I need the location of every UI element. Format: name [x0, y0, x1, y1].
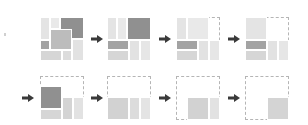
- panel-7: [176, 76, 220, 120]
- arrow-right-icon: [91, 35, 103, 43]
- arrow-right-icon: [159, 35, 171, 43]
- tile: [176, 17, 187, 40]
- tile: [40, 109, 62, 120]
- tile: [176, 40, 198, 50]
- panel-6: [107, 76, 151, 120]
- tile: [73, 97, 84, 120]
- panel-4: [245, 17, 289, 61]
- arrow-right-icon: [228, 94, 240, 102]
- panel-1: [40, 17, 84, 61]
- tile: [107, 97, 129, 120]
- tile: [176, 50, 198, 61]
- panel-8: [245, 76, 289, 120]
- tile: [129, 97, 140, 120]
- arrow-right-icon: [22, 94, 34, 102]
- tile: [127, 17, 151, 40]
- tile: [129, 40, 140, 61]
- tile: [267, 40, 278, 61]
- tile: [245, 50, 267, 61]
- tile: [209, 40, 220, 61]
- tile: [40, 40, 50, 50]
- tile: [107, 17, 117, 40]
- tile: [72, 39, 84, 61]
- tile: [107, 40, 129, 50]
- tile: [62, 50, 72, 61]
- panel-3: [176, 17, 220, 61]
- tile: [245, 40, 267, 50]
- arrow-right-icon: [228, 35, 240, 43]
- tile: [198, 40, 209, 61]
- tile: [50, 29, 72, 50]
- tile: [187, 17, 209, 40]
- tile: [107, 50, 129, 61]
- tile: [117, 17, 127, 40]
- tile: [209, 97, 220, 120]
- panel-2: [107, 17, 151, 61]
- panel-5: [40, 76, 84, 120]
- tile: [278, 40, 289, 61]
- tile: [140, 97, 151, 120]
- arrow-right-icon: [91, 94, 103, 102]
- tile: [40, 17, 50, 40]
- arrow-right-icon: [159, 94, 171, 102]
- tile: [267, 97, 289, 120]
- tile: [140, 40, 151, 61]
- marker-dot: [4, 33, 6, 36]
- tile: [62, 97, 73, 120]
- tile: [245, 17, 267, 40]
- tile: [40, 86, 62, 109]
- tile: [40, 50, 62, 61]
- tile: [50, 17, 60, 29]
- tile: [187, 97, 209, 120]
